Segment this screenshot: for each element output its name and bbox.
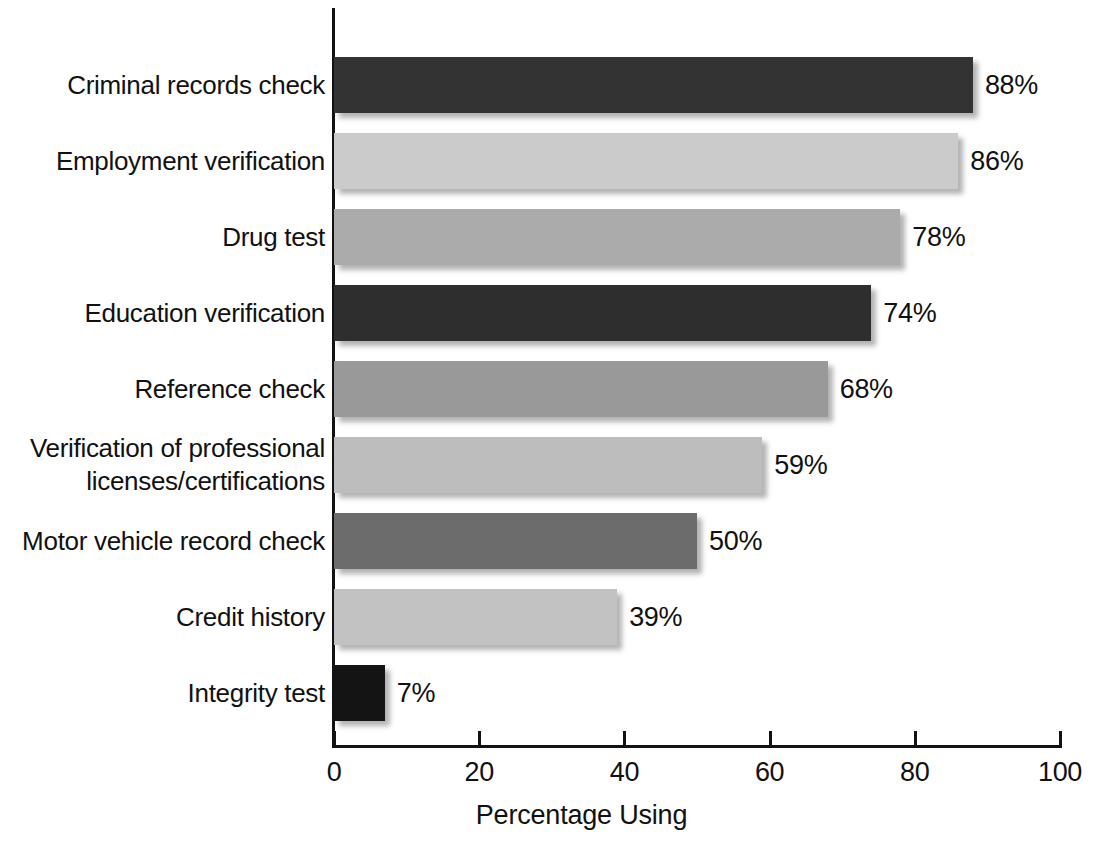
bar[interactable] [334,209,900,265]
category-label: Employment verification [0,145,325,178]
bar-value-label: 86% [970,133,1023,189]
category-label: Integrity test [0,677,325,710]
bar[interactable] [334,57,973,113]
category-label: Education verification [0,297,325,330]
bar[interactable] [334,513,697,569]
bar[interactable] [334,361,828,417]
bar-value-label: 39% [629,589,682,645]
x-axis-tick [333,731,336,745]
bar-chart: 020406080100 Criminal records check88%Em… [0,0,1101,856]
bar[interactable] [334,437,762,493]
category-label: Credit history [0,601,325,634]
x-axis-title-text: Percentage Using [476,800,687,830]
x-axis-tick-label: 20 [464,755,493,789]
x-axis-tick [623,731,626,745]
category-label: Drug test [0,221,325,254]
x-axis-title: Percentage Using [0,800,1101,831]
bar-value-label: 74% [883,285,936,341]
bar[interactable] [334,285,871,341]
x-axis-tick-label: 100 [1038,755,1082,789]
x-axis-tick [769,731,772,745]
x-axis-tick [914,731,917,745]
x-axis-tick-label: 0 [327,755,342,789]
bar-value-label: 7% [397,665,435,721]
bar[interactable] [334,589,617,645]
category-label: Verification of professional licenses/ce… [0,432,325,498]
x-axis-tick [478,731,481,745]
x-axis-tick [1059,731,1062,745]
x-axis-tick-label: 60 [755,755,784,789]
bar-value-label: 78% [912,209,965,265]
bar[interactable] [334,665,385,721]
bar-value-label: 50% [709,513,762,569]
bar-value-label: 68% [840,361,893,417]
category-label: Criminal records check [0,69,325,102]
x-axis-tick-label: 40 [610,755,639,789]
category-label: Reference check [0,373,325,406]
x-axis-line [332,745,1062,748]
x-axis-tick-label: 80 [900,755,929,789]
category-label: Motor vehicle record check [0,525,325,558]
bar-value-label: 59% [774,437,827,493]
bar-value-label: 88% [985,57,1038,113]
bar[interactable] [334,133,958,189]
